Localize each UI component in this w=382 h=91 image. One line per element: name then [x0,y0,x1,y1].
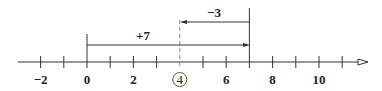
tick-label: 0 [84,72,91,87]
arrowhead-left-icon [180,20,187,24]
jump-plus7-label: +7 [136,28,150,43]
tick-label: 8 [269,72,276,87]
circled-tick-label: 4 [177,72,184,87]
jump-minus3-label: −3 [207,5,221,20]
tick-label: 2 [130,72,137,87]
axis-arrow-icon [358,59,368,65]
tick-label: 6 [223,72,230,87]
number-line-diagram: +7 −3 −2 0 2 4 6 8 10 [0,0,382,91]
tick-label: 10 [313,72,326,87]
tick-label: −2 [34,72,48,87]
